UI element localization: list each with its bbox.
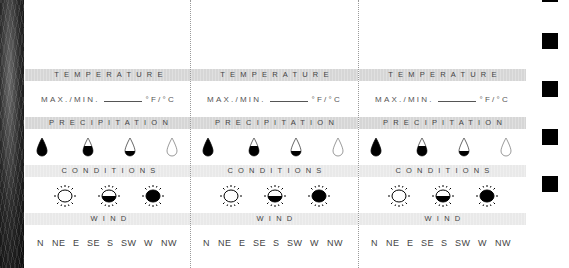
sun-half-cloudy-icon[interactable]	[263, 184, 287, 208]
drop-two-thirds-icon[interactable]	[416, 137, 428, 157]
black-square-marker	[542, 0, 558, 2]
wind-ne[interactable]: NE	[218, 238, 232, 248]
wind-header: WIND	[191, 213, 358, 225]
sun-clear-icon[interactable]	[387, 184, 411, 208]
wind-e[interactable]: E	[239, 238, 246, 248]
maxmin-row: MAX./MIN.°F/°C	[25, 93, 192, 104]
wind-w[interactable]: W	[144, 238, 153, 248]
sun-overcast-icon[interactable]	[307, 184, 331, 208]
maxmin-blank-field[interactable]	[104, 93, 142, 102]
maxmin-row: MAX./MIN.°F/°C	[191, 93, 358, 104]
wind-header: WIND	[359, 213, 526, 225]
temperature-header: TEMPERATURE	[25, 69, 192, 81]
wind-n[interactable]: N	[371, 238, 378, 248]
drop-one-third-icon[interactable]	[458, 137, 470, 157]
day-column-3: TEMPERATURE MAX./MIN.°F/°C PRECIPITATION…	[359, 0, 526, 268]
drop-two-thirds-icon[interactable]	[248, 137, 260, 157]
wind-nw[interactable]: NW	[327, 238, 343, 248]
precipitation-header: PRECIPITATION	[191, 117, 358, 129]
sun-overcast-icon[interactable]	[475, 184, 499, 208]
conditions-header: CONDITIONS	[25, 165, 192, 177]
wind-ne[interactable]: NE	[52, 238, 66, 248]
unit-label: °F/°C	[146, 95, 176, 104]
maxmin-row: MAX./MIN.°F/°C	[359, 93, 526, 104]
drop-empty-icon[interactable]	[166, 137, 178, 157]
precipitation-options	[359, 137, 526, 159]
drop-full-icon[interactable]	[202, 137, 214, 157]
sun-clear-icon[interactable]	[219, 184, 243, 208]
black-square-marker	[542, 176, 558, 192]
drop-one-third-icon[interactable]	[124, 137, 136, 157]
wind-n[interactable]: N	[37, 238, 44, 248]
wind-w[interactable]: W	[478, 238, 487, 248]
drop-two-thirds-icon[interactable]	[82, 137, 94, 157]
wind-se[interactable]: SE	[87, 238, 100, 248]
wind-n[interactable]: N	[203, 238, 210, 248]
drop-empty-icon[interactable]	[500, 137, 512, 157]
conditions-header: CONDITIONS	[359, 165, 526, 177]
drop-full-icon[interactable]	[370, 137, 382, 157]
wind-s[interactable]: S	[107, 238, 114, 248]
conditions-options	[191, 184, 358, 208]
wind-directions: N NE E SE S SW W NW	[359, 238, 526, 250]
wind-nw[interactable]: NW	[161, 238, 177, 248]
wind-e[interactable]: E	[407, 238, 414, 248]
conditions-options	[25, 184, 192, 208]
maxmin-blank-field[interactable]	[270, 93, 308, 102]
sun-half-cloudy-icon[interactable]	[97, 184, 121, 208]
maxmin-label: MAX./MIN.	[41, 95, 99, 104]
precipitation-header: PRECIPITATION	[359, 117, 526, 129]
black-square-marker	[542, 33, 558, 49]
wind-se[interactable]: SE	[421, 238, 434, 248]
wind-e[interactable]: E	[73, 238, 80, 248]
maxmin-label: MAX./MIN.	[375, 95, 433, 104]
black-square-marker	[542, 81, 558, 97]
day-column-1: TEMPERATURE MAX./MIN.°F/°C PRECIPITATION…	[25, 0, 192, 268]
conditions-header: CONDITIONS	[191, 165, 358, 177]
precipitation-options	[25, 137, 192, 159]
wind-header: WIND	[25, 213, 192, 225]
drop-one-third-icon[interactable]	[290, 137, 302, 157]
unit-label: °F/°C	[480, 95, 510, 104]
maxmin-label: MAX./MIN.	[207, 95, 265, 104]
drop-full-icon[interactable]	[36, 137, 48, 157]
sun-overcast-icon[interactable]	[141, 184, 165, 208]
wind-s[interactable]: S	[441, 238, 448, 248]
wind-sw[interactable]: SW	[121, 238, 137, 248]
sun-half-cloudy-icon[interactable]	[431, 184, 455, 208]
precipitation-options	[191, 137, 358, 159]
grass-photo-strip	[0, 0, 24, 268]
unit-label: °F/°C	[312, 95, 342, 104]
wind-w[interactable]: W	[310, 238, 319, 248]
temperature-header: TEMPERATURE	[191, 69, 358, 81]
conditions-options	[359, 184, 526, 208]
maxmin-blank-field[interactable]	[438, 93, 476, 102]
wind-sw[interactable]: SW	[455, 238, 471, 248]
sun-clear-icon[interactable]	[53, 184, 77, 208]
precipitation-header: PRECIPITATION	[25, 117, 192, 129]
wind-directions: N NE E SE S SW W NW	[25, 238, 192, 250]
wind-directions: N NE E SE S SW W NW	[191, 238, 358, 250]
black-square-marker	[542, 129, 558, 145]
wind-se[interactable]: SE	[253, 238, 266, 248]
wind-s[interactable]: S	[273, 238, 280, 248]
temperature-header: TEMPERATURE	[359, 69, 526, 81]
wind-sw[interactable]: SW	[287, 238, 303, 248]
day-column-2: TEMPERATURE MAX./MIN.°F/°C PRECIPITATION…	[191, 0, 358, 268]
wind-ne[interactable]: NE	[386, 238, 400, 248]
drop-empty-icon[interactable]	[332, 137, 344, 157]
wind-nw[interactable]: NW	[495, 238, 511, 248]
